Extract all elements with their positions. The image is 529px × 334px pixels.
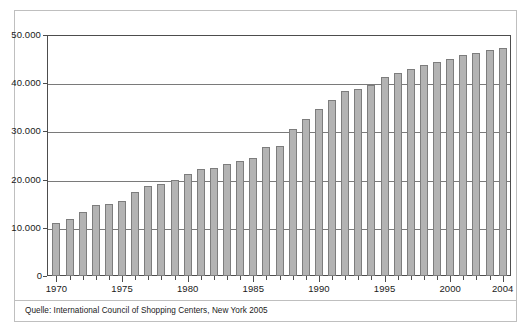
- x-tick-1985: [253, 276, 254, 282]
- x-tick-1997: [411, 276, 412, 280]
- x-tick-1979: [175, 276, 176, 280]
- x-tick-1992: [345, 276, 346, 280]
- x-tick-label-1975: 1975: [106, 283, 138, 294]
- x-tick-1978: [161, 276, 162, 280]
- bar-1994: [367, 85, 375, 276]
- x-tick-2000: [450, 276, 451, 282]
- x-tick-label-1985: 1985: [237, 283, 269, 294]
- bar-1980: [184, 174, 192, 276]
- x-tick-1989: [306, 276, 307, 280]
- x-tick-1975: [122, 276, 123, 282]
- bar-1999: [433, 62, 441, 276]
- x-tick-1990: [319, 276, 320, 282]
- x-tick-1998: [424, 276, 425, 280]
- x-tick-1991: [332, 276, 333, 280]
- x-tick-1987: [280, 276, 281, 280]
- y-tick-label-20000: 20.000: [0, 174, 41, 185]
- x-tick-label-2004: 2004: [487, 283, 519, 294]
- source-caption: Quelle: International Council of Shoppin…: [25, 306, 268, 315]
- bar-1993: [354, 89, 362, 276]
- bar-2003: [486, 50, 494, 276]
- x-tick-1986: [266, 276, 267, 280]
- x-tick-label-1995: 1995: [369, 283, 401, 294]
- bar-1991: [328, 100, 336, 276]
- x-tick-1981: [201, 276, 202, 280]
- bar-1995: [381, 77, 389, 276]
- y-tick-label-30000: 30.000: [0, 125, 41, 136]
- x-tick-1999: [437, 276, 438, 280]
- x-tick-1982: [214, 276, 215, 280]
- x-tick-2001: [463, 276, 464, 280]
- x-tick-label-1970: 1970: [40, 283, 72, 294]
- bar-1982: [210, 168, 218, 276]
- y-tick-mark-0: [43, 276, 47, 277]
- x-tick-1970: [56, 276, 57, 282]
- y-tick-label-0: 0: [30, 270, 42, 281]
- bar-2002: [472, 53, 480, 276]
- x-tick-1976: [135, 276, 136, 280]
- bar-1996: [394, 73, 402, 276]
- bar-1988: [289, 129, 297, 276]
- x-tick-label-1990: 1990: [303, 283, 335, 294]
- x-tick-1973: [96, 276, 97, 280]
- bar-1971: [66, 219, 74, 276]
- x-tick-1993: [358, 276, 359, 280]
- caption-divider: [15, 300, 516, 301]
- bar-1981: [197, 169, 205, 276]
- bar-1989: [302, 119, 310, 276]
- bar-1987: [276, 146, 284, 276]
- x-tick-1996: [398, 276, 399, 280]
- bar-1990: [315, 109, 323, 276]
- y-tick-label-40000: 40.000: [0, 77, 41, 88]
- x-tick-label-2000: 2000: [434, 283, 466, 294]
- figure-container: 010.00020.00030.00040.00050.000 19701975…: [0, 0, 529, 334]
- plot-wrapper: 010.00020.00030.00040.00050.000 19701975…: [0, 0, 529, 334]
- x-tick-1988: [293, 276, 294, 280]
- bar-2001: [459, 55, 467, 276]
- x-tick-1972: [83, 276, 84, 280]
- x-tick-1983: [227, 276, 228, 280]
- bar-1997: [407, 69, 415, 276]
- bar-2004: [499, 48, 507, 276]
- x-tick-1994: [371, 276, 372, 280]
- bar-1976: [131, 192, 139, 276]
- y-tick-label-50000: 50.000: [0, 29, 41, 40]
- x-tick-1980: [188, 276, 189, 282]
- bar-1974: [105, 204, 113, 276]
- bar-1975: [118, 201, 126, 276]
- bar-1972: [79, 212, 87, 276]
- bar-1978: [157, 184, 165, 276]
- x-tick-2002: [476, 276, 477, 280]
- bar-1983: [223, 164, 231, 276]
- bar-1984: [236, 161, 244, 276]
- bar-1979: [171, 180, 179, 276]
- bar-2000: [446, 59, 454, 276]
- x-tick-1974: [109, 276, 110, 280]
- bar-1977: [144, 186, 152, 276]
- x-tick-label-1980: 1980: [172, 283, 204, 294]
- bar-1998: [420, 65, 428, 276]
- x-tick-1977: [148, 276, 149, 280]
- bar-1986: [262, 147, 270, 276]
- x-tick-1984: [240, 276, 241, 280]
- y-tick-label-10000: 10.000: [0, 222, 41, 233]
- x-tick-1995: [385, 276, 386, 282]
- x-tick-2003: [490, 276, 491, 280]
- bar-1992: [341, 91, 349, 276]
- bar-1973: [92, 205, 100, 276]
- x-tick-2004: [503, 276, 504, 282]
- x-tick-1971: [70, 276, 71, 280]
- bar-1985: [249, 158, 257, 276]
- bar-series: [47, 35, 511, 276]
- bar-1970: [52, 223, 60, 276]
